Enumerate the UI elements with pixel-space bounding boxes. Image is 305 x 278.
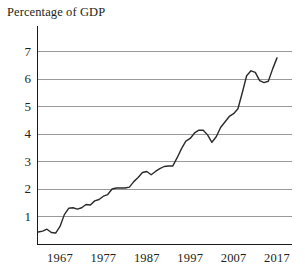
y-tick-label: 4 (25, 126, 32, 141)
x-tick-label: 1967 (47, 251, 73, 265)
x-axis-tick-labels: 196719771987199720072017 (47, 251, 290, 265)
y-tick-label: 6 (25, 71, 32, 86)
data-series-line (38, 58, 277, 233)
y-tick-label: 7 (25, 44, 32, 59)
line-chart-plot: 1234567 196719771987199720072017 (0, 0, 305, 278)
x-tick-label: 2007 (221, 251, 247, 265)
y-tick-label: 3 (25, 154, 32, 169)
y-tick-label: 1 (25, 209, 32, 224)
chart-container: Percentage of GDP 1234567 19671977198719… (0, 0, 305, 278)
x-tick-label: 1977 (90, 251, 116, 265)
x-tick-label: 1987 (134, 251, 160, 265)
x-tick-label: 2017 (264, 251, 290, 265)
gridlines (38, 52, 292, 217)
y-tick-label: 5 (25, 99, 32, 114)
y-axis-tick-labels: 1234567 (25, 44, 32, 224)
x-tick-label: 1997 (177, 251, 203, 265)
y-tick-label: 2 (25, 181, 32, 196)
